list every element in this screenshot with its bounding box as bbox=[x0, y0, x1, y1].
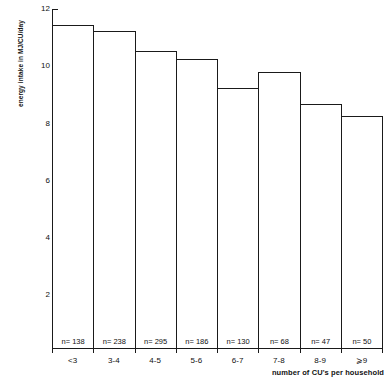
x-tick bbox=[300, 348, 301, 353]
y-tick-label: 6 bbox=[20, 177, 50, 185]
bar-count-label: n= 295 bbox=[136, 337, 176, 346]
bar: n= 68 bbox=[258, 72, 300, 348]
x-axis-title: number of CU's per household bbox=[272, 368, 384, 377]
bar-count-label: n= 186 bbox=[177, 337, 217, 346]
x-tick bbox=[341, 348, 342, 353]
x-tick bbox=[382, 348, 383, 353]
bar-count-label: n= 68 bbox=[259, 337, 299, 346]
y-tick-12 bbox=[52, 9, 58, 10]
y-tick-label: 10 bbox=[20, 62, 50, 70]
bar: n= 50 bbox=[341, 116, 383, 348]
x-tick bbox=[93, 348, 94, 353]
bar-count-label: n= 238 bbox=[94, 337, 134, 346]
x-tick-label: <3 bbox=[52, 356, 93, 365]
y-tick-label: 2 bbox=[20, 291, 50, 299]
bar: n= 130 bbox=[217, 88, 259, 348]
bar: n= 295 bbox=[135, 51, 177, 348]
x-tick bbox=[217, 348, 218, 353]
bar-count-label: n= 47 bbox=[301, 337, 341, 346]
bar: n= 47 bbox=[300, 104, 342, 348]
bar: n= 186 bbox=[176, 59, 218, 348]
bar: n= 238 bbox=[93, 31, 135, 348]
bar-count-label: n= 50 bbox=[342, 337, 382, 346]
x-tick-label: 4-5 bbox=[135, 356, 176, 365]
x-tick-label: 7-8 bbox=[258, 356, 299, 365]
y-tick-label: 4 bbox=[20, 234, 50, 242]
x-tick bbox=[176, 348, 177, 353]
y-tick-label: 12 bbox=[20, 5, 50, 13]
bar-chart: energy intake in MJ/CU/day 24681012 n= 1… bbox=[0, 0, 392, 384]
x-tick bbox=[52, 348, 53, 353]
x-tick bbox=[135, 348, 136, 353]
x-tick-label: ⩾9 bbox=[341, 356, 382, 365]
x-tick-label: 3-4 bbox=[93, 356, 134, 365]
bar: n= 138 bbox=[52, 25, 94, 348]
bar-count-label: n= 130 bbox=[218, 337, 258, 346]
x-tick bbox=[258, 348, 259, 353]
x-tick-label: 6-7 bbox=[217, 356, 258, 365]
y-tick-label: 8 bbox=[20, 120, 50, 128]
x-tick-label: 8-9 bbox=[300, 356, 341, 365]
x-tick-label: 5-6 bbox=[176, 356, 217, 365]
bar-count-label: n= 138 bbox=[53, 337, 93, 346]
